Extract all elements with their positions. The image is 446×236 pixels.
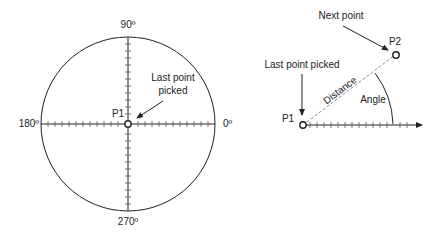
p1-marker-icon — [125, 121, 131, 127]
label-270: 270º — [118, 216, 139, 227]
p2-marker-icon — [393, 52, 399, 58]
label-0: 0º — [223, 118, 233, 129]
label-p2: P2 — [389, 36, 402, 47]
label-distance: Distance — [321, 74, 359, 106]
next-point-arrow-icon — [343, 26, 388, 50]
label-last-point-picked: Last point picked — [264, 59, 339, 70]
callout-line-2: picked — [159, 85, 188, 96]
label-180: 180º — [19, 118, 40, 129]
p1-marker-icon — [300, 122, 306, 128]
label-90: 90º — [121, 19, 136, 30]
diagram-canvas: 90º 180º 0º 270º P1 Last point picked Ne… — [0, 0, 446, 236]
label-p1: P1 — [282, 113, 295, 124]
distance-angle-diagram: Next point P2 Last point picked P1 Dista… — [264, 10, 422, 128]
callout-line-1: Last point — [151, 72, 195, 83]
label-angle: Angle — [360, 94, 386, 105]
label-p1: P1 — [112, 108, 125, 119]
callout-arrow-icon — [137, 101, 163, 118]
label-next-point: Next point — [318, 10, 363, 21]
polar-diagram: 90º 180º 0º 270º P1 Last point picked — [19, 19, 233, 227]
